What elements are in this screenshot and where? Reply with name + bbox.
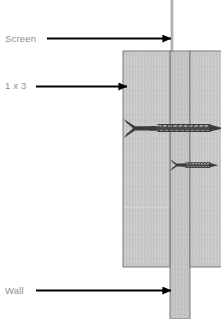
wall-part [170,51,190,319]
label-wall: Wall [5,285,24,296]
diagram-illustration [0,0,221,319]
screen-part [171,0,174,52]
label-board-1x3: 1 x 3 [5,80,27,91]
diagram-canvas: Screen 1 x 3 Wall [0,0,221,319]
board-back-part [190,51,221,267]
board-front-part [123,51,170,267]
label-screen: Screen [5,33,36,44]
